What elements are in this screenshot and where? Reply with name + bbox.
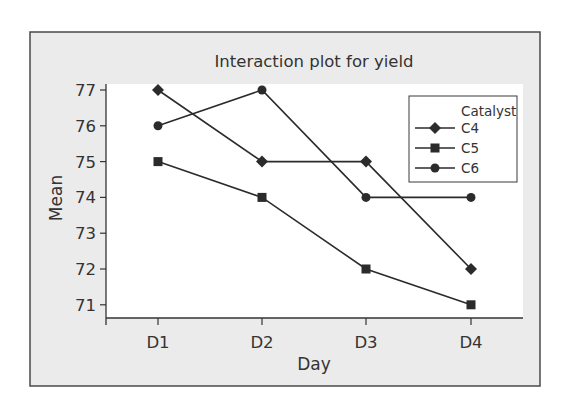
x-tick-label: D1 [146,333,169,352]
circle-marker [362,193,371,202]
x-tick-label: D2 [250,333,273,352]
square-marker [154,157,163,166]
y-tick-label: 75 [75,153,96,172]
legend-label: C6 [461,160,479,176]
y-axis-label: Mean [46,175,66,221]
square-marker [467,300,476,309]
x-axis-label: Day [297,354,331,374]
circle-marker [154,121,163,130]
square-marker [362,265,371,274]
y-tick-label: 77 [75,81,96,100]
y-tick-label: 71 [75,296,96,315]
legend-circle-icon [431,164,440,173]
y-tick-label: 74 [75,188,96,207]
square-marker [258,193,267,202]
chart-title: Interaction plot for yield [214,52,413,71]
legend-label: C4 [461,120,479,136]
legend-square-icon [431,144,440,153]
legend: Catalyst C4C5C6 [409,96,517,182]
interaction-plot: Interaction plot for yield 7172737475767… [0,0,565,406]
circle-marker [258,86,267,95]
x-tick-label: D4 [459,333,482,352]
y-tick-label: 73 [75,224,96,243]
y-tick-label: 76 [75,117,96,136]
circle-marker [467,193,476,202]
x-tick-label: D3 [354,333,377,352]
legend-title: Catalyst [461,103,516,119]
legend-label: C5 [461,140,479,156]
y-tick-label: 72 [75,260,96,279]
